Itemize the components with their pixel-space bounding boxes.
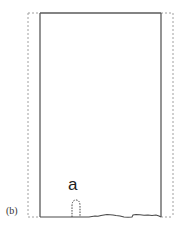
inner-solid-boundary (40, 13, 161, 217)
outer-dashed-boundary (28, 13, 173, 217)
panel-label: (b) (6, 205, 18, 216)
dashed-dome-feature (72, 200, 80, 217)
diagram-canvas (0, 0, 184, 232)
bottom-interface-line (40, 215, 161, 218)
feature-label-a: a (68, 176, 77, 193)
